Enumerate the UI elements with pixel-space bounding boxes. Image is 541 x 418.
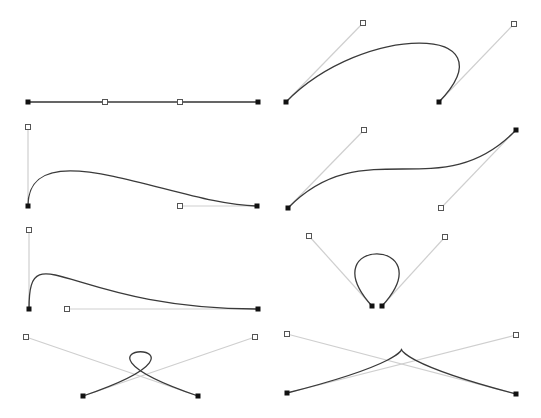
handle-line-start [286, 23, 363, 102]
anchor-point-start[interactable] [26, 204, 31, 209]
anchor-point-start[interactable] [284, 100, 289, 105]
control-handle-end[interactable] [439, 206, 444, 211]
handle-line-end [441, 130, 516, 208]
bezier-curve-teardrop-loop [307, 234, 448, 309]
control-handle-end[interactable] [285, 332, 290, 337]
curve-path [29, 274, 258, 309]
bezier-curve-cusp [285, 332, 519, 397]
bezier-curve-steep-hump [27, 228, 261, 312]
anchor-point-start[interactable] [27, 307, 32, 312]
anchor-point-end[interactable] [514, 392, 519, 397]
bezier-curve-crossing-loop [24, 335, 258, 399]
curve-path [28, 171, 257, 206]
bezier-curve-straight-line [26, 100, 261, 105]
control-handle-start[interactable] [307, 234, 312, 239]
anchor-point-end[interactable] [380, 304, 385, 309]
bezier-curve-hump-descend [26, 125, 260, 209]
curve-path [286, 43, 459, 102]
anchor-point-end[interactable] [437, 100, 442, 105]
anchor-point-end[interactable] [256, 100, 261, 105]
anchor-point-end[interactable] [514, 128, 519, 133]
control-handle-start[interactable] [253, 335, 258, 340]
anchor-point-start[interactable] [26, 100, 31, 105]
handle-line-start [288, 130, 364, 208]
control-handle-start[interactable] [514, 333, 519, 338]
control-handle-end[interactable] [178, 100, 183, 105]
control-handle-end[interactable] [443, 235, 448, 240]
curve-path [355, 254, 399, 306]
control-handle-start[interactable] [103, 100, 108, 105]
control-handle-start[interactable] [361, 21, 366, 26]
curve-path [287, 349, 516, 394]
control-handle-end[interactable] [512, 22, 517, 27]
anchor-point-end[interactable] [256, 307, 261, 312]
curve-path [288, 130, 516, 208]
anchor-point-start[interactable] [285, 391, 290, 396]
control-handle-end[interactable] [24, 335, 29, 340]
anchor-point-start[interactable] [81, 394, 86, 399]
control-handle-start[interactable] [26, 125, 31, 130]
control-handle-end[interactable] [178, 204, 183, 209]
bezier-diagram-canvas [0, 0, 541, 418]
control-handle-start[interactable] [27, 228, 32, 233]
anchor-point-start[interactable] [286, 206, 291, 211]
handle-line-end [439, 24, 514, 102]
curve-path [83, 352, 198, 396]
anchor-point-end[interactable] [255, 204, 260, 209]
control-handle-start[interactable] [362, 128, 367, 133]
control-handle-end[interactable] [65, 307, 70, 312]
bezier-curve-s-curve [286, 128, 519, 211]
anchor-point-start[interactable] [370, 304, 375, 309]
anchor-point-end[interactable] [196, 394, 201, 399]
handle-line-start [309, 236, 372, 306]
bezier-curve-arch-hook [284, 21, 517, 105]
handle-line-end [382, 237, 445, 306]
curves-layer [24, 21, 519, 399]
